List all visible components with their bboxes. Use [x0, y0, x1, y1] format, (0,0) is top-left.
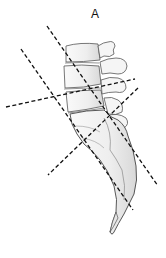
panel-label: A	[91, 7, 99, 21]
lumbar-vertebrae	[64, 43, 104, 113]
spinous-process-1	[98, 42, 115, 59]
spine-diagram: A	[0, 0, 166, 258]
spine-illustration	[0, 0, 166, 258]
sacrum-body	[70, 110, 137, 234]
sacrum	[70, 110, 137, 234]
spinous-process-2	[100, 58, 127, 74]
vertebra-body-1	[66, 43, 100, 62]
